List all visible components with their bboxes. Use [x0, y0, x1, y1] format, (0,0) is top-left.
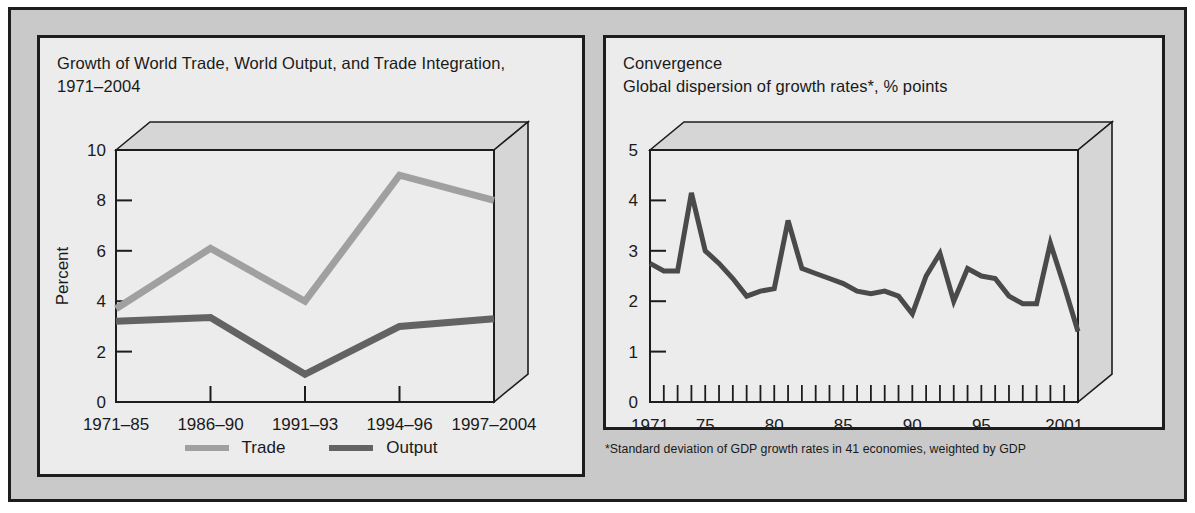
figure-container: Growth of World Trade, World Output, and… — [8, 7, 1187, 502]
x-axis-tick-label: 1994–96 — [366, 415, 432, 434]
x-axis-tick-label: 80 — [765, 416, 784, 427]
chart-panel-trade-output: Growth of World Trade, World Output, and… — [37, 35, 585, 477]
y-axis-tick-label: 2 — [629, 292, 638, 311]
y-axis-tick-label: 4 — [97, 292, 106, 311]
y-axis-tick-label: 6 — [97, 242, 106, 261]
y-axis-tick-label: 8 — [97, 191, 106, 210]
legend-item-output: Output — [329, 438, 437, 458]
right-chart-canvas: 012345197175808590952001 — [606, 38, 1162, 427]
chart-box-top-face — [650, 122, 1112, 150]
y-axis-tick-label: 5 — [629, 141, 638, 160]
chart-box-right-face — [494, 122, 528, 402]
y-axis-tick-label: 10 — [87, 141, 106, 160]
y-axis-tick-label: 2 — [97, 343, 106, 362]
y-axis-title: Percent — [53, 246, 72, 305]
y-axis-tick-label: 1 — [629, 343, 638, 362]
legend-item-trade: Trade — [185, 438, 286, 458]
y-axis-tick-label: 0 — [629, 393, 638, 412]
y-axis-tick-label: 0 — [97, 393, 106, 412]
x-axis-tick-label: 90 — [903, 416, 922, 427]
x-axis-tick-label: 2001 — [1045, 416, 1083, 427]
legend-swatch-trade — [185, 445, 229, 451]
x-axis-tick-label: 1991–93 — [272, 415, 338, 434]
legend-label-trade: Trade — [242, 438, 286, 458]
x-axis-tick-label: 1971–85 — [83, 415, 149, 434]
x-axis-tick-label: 95 — [972, 416, 991, 427]
chart-plot-area — [650, 150, 1078, 402]
x-axis-tick-label: 1971 — [631, 416, 669, 427]
chart-panel-convergence: Convergence Global dispersion of growth … — [603, 35, 1165, 430]
x-axis-tick-label: 85 — [834, 416, 853, 427]
chart-box-right-face — [1078, 122, 1112, 402]
right-chart-footnote: *Standard deviation of GDP growth rates … — [605, 442, 1026, 456]
x-axis-tick-label: 75 — [696, 416, 715, 427]
left-chart-canvas: 0246810Percent1971–851986–901991–931994–… — [40, 38, 582, 474]
x-axis-tick-label: 1997–2004 — [451, 415, 536, 434]
legend-label-output: Output — [386, 438, 437, 458]
legend-swatch-output — [329, 445, 373, 451]
y-axis-tick-label: 3 — [629, 242, 638, 261]
left-chart-legend: Trade Output — [40, 438, 582, 458]
chart-box-top-face — [116, 122, 528, 150]
y-axis-tick-label: 4 — [629, 191, 638, 210]
x-axis-tick-label: 1986–90 — [177, 415, 243, 434]
